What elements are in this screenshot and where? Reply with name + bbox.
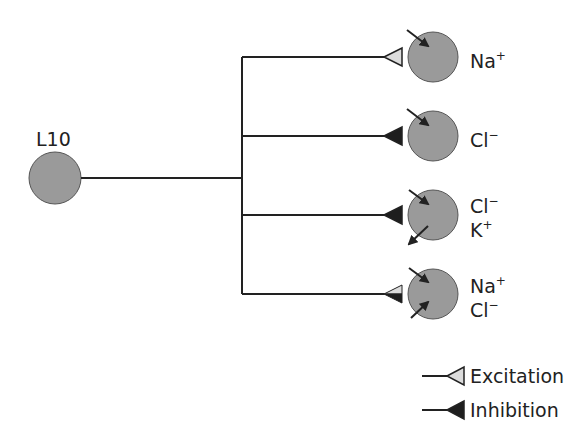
ion-label: Cl− bbox=[470, 294, 499, 321]
mixed-synapse-excitatory-half-icon bbox=[384, 285, 402, 294]
ion-label: Na+ bbox=[470, 45, 506, 72]
excitatory-synapse-icon bbox=[384, 48, 402, 66]
ion-label: Na+ bbox=[470, 270, 506, 297]
ion-label: K+ bbox=[470, 214, 493, 241]
target-neuron-1 bbox=[408, 32, 458, 82]
legend-inhibition-label: Inhibition bbox=[470, 399, 559, 421]
target-neuron-4 bbox=[408, 269, 458, 319]
neuron-l10 bbox=[29, 152, 81, 204]
source-neuron-label: L10 bbox=[36, 128, 71, 150]
target-neuron-2 bbox=[408, 111, 458, 161]
inhibitory-synapse-icon bbox=[384, 206, 402, 224]
legend-inhibition-icon bbox=[447, 401, 464, 419]
ion-label: Cl− bbox=[470, 124, 499, 151]
target-neuron-3 bbox=[408, 190, 458, 240]
legend-excitation-label: Excitation bbox=[470, 365, 564, 387]
ion-label: Cl− bbox=[470, 190, 499, 217]
mixed-synapse-inhibitory-half-icon bbox=[384, 294, 402, 303]
legend-excitation-icon bbox=[447, 367, 464, 385]
inhibitory-synapse-icon bbox=[384, 127, 402, 145]
